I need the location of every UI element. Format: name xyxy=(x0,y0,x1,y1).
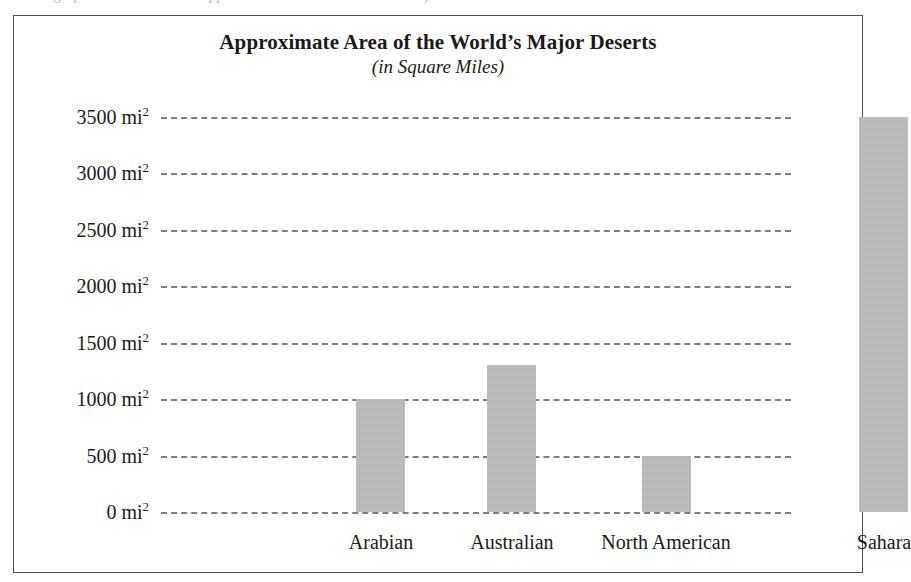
gridline xyxy=(161,173,791,175)
x-axis-tick-label: Arabian xyxy=(349,531,413,554)
y-axis-tick-value: 2500 mi xyxy=(76,218,142,240)
y-axis-unit-exponent: 2 xyxy=(143,274,149,288)
y-axis-tick-value: 2000 mi xyxy=(76,275,142,297)
gridline xyxy=(161,117,791,119)
y-axis-tick-label: 1500 mi2 xyxy=(76,331,149,354)
gridline xyxy=(161,343,791,345)
bar xyxy=(642,456,691,512)
y-axis-tick-value: 500 mi xyxy=(86,444,142,466)
chart-subtitle: (in Square Miles) xyxy=(14,56,862,79)
chart-title-block: Approximate Area of the World’s Major De… xyxy=(14,30,862,79)
y-axis-unit-exponent: 2 xyxy=(143,218,149,232)
gridline xyxy=(161,230,791,232)
cropped-text-above-figure: the graph below shows the approximate ar… xyxy=(0,0,877,13)
y-axis-tick-label: 3000 mi2 xyxy=(76,162,149,185)
cropped-text-line: the graph below shows the approximate ar… xyxy=(30,0,490,4)
x-axis-tick-label: North American xyxy=(601,531,730,554)
y-axis-tick-label: 2500 mi2 xyxy=(76,218,149,241)
y-axis-tick-label: 3500 mi2 xyxy=(76,106,149,129)
y-axis-tick-label: 2000 mi2 xyxy=(76,275,149,298)
bar xyxy=(487,365,536,512)
gridline xyxy=(161,512,791,514)
y-axis-tick-value: 0 mi xyxy=(106,501,142,523)
x-axis-tick-label: Sahara xyxy=(857,531,911,554)
gridline xyxy=(161,456,791,458)
x-axis-tick-label: Australian xyxy=(470,531,553,554)
y-axis-tick-value: 1500 mi xyxy=(76,331,142,353)
gridline xyxy=(161,286,791,288)
figure-frame: Approximate Area of the World’s Major De… xyxy=(13,15,863,573)
gridline xyxy=(161,399,791,401)
y-axis-unit-exponent: 2 xyxy=(143,105,149,119)
y-axis-tick-label: 1000 mi2 xyxy=(76,388,149,411)
y-axis-tick-value: 1000 mi xyxy=(76,388,142,410)
y-axis-tick-label: 500 mi2 xyxy=(86,444,149,467)
y-axis-unit-exponent: 2 xyxy=(143,500,149,514)
y-axis-unit-exponent: 2 xyxy=(143,443,149,457)
chart-title: Approximate Area of the World’s Major De… xyxy=(14,30,862,55)
y-axis-unit-exponent: 2 xyxy=(143,387,149,401)
bar xyxy=(859,117,908,512)
y-axis-tick-value: 3000 mi xyxy=(76,162,142,184)
plot-area: 0 mi2500 mi21000 mi21500 mi22000 mi22500… xyxy=(161,117,791,512)
y-axis-unit-exponent: 2 xyxy=(143,161,149,175)
y-axis-unit-exponent: 2 xyxy=(143,331,149,345)
y-axis-tick-label: 0 mi2 xyxy=(106,501,149,524)
y-axis-tick-value: 3500 mi xyxy=(76,106,142,128)
bar xyxy=(356,399,405,512)
